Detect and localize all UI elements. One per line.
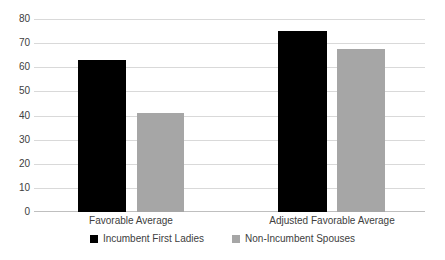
bar-incumbent-first-ladies-favorable-average	[78, 60, 126, 212]
y-tick-label: 0	[4, 207, 30, 217]
x-axis: Favorable Average Adjusted Favorable Ave…	[34, 214, 425, 230]
legend-item-incumbent-first-ladies[interactable]: Incumbent First Ladies	[90, 234, 204, 244]
bar-incumbent-first-ladies-adjusted-favorable-average	[278, 31, 327, 212]
bar-non-incumbent-spouses-adjusted-favorable-average	[337, 49, 385, 212]
legend-swatch-icon	[232, 235, 240, 243]
y-tick-label: 50	[4, 86, 30, 96]
gridline-80	[34, 19, 425, 20]
plot-area	[34, 19, 425, 212]
bar-non-incumbent-spouses-favorable-average	[137, 113, 184, 212]
y-tick-label: 60	[4, 62, 30, 72]
y-tick-label: 70	[4, 38, 30, 48]
bar-chart: 80 70 60 50 40 30 20 10 0 Favorable Aver…	[0, 0, 445, 260]
y-tick-label: 80	[4, 14, 30, 24]
legend-label: Non-Incumbent Spouses	[245, 234, 355, 244]
y-axis: 80 70 60 50 40 30 20 10 0	[0, 19, 30, 212]
x-tick-label-adjusted-favorable-average: Adjusted Favorable Average	[256, 214, 408, 228]
gridline-70	[34, 43, 425, 44]
y-tick-label: 30	[4, 135, 30, 145]
legend-item-non-incumbent-spouses[interactable]: Non-Incumbent Spouses	[232, 234, 355, 244]
legend: Incumbent First Ladies Non-Incumbent Spo…	[0, 234, 445, 244]
y-tick-label: 10	[4, 183, 30, 193]
x-tick-label-favorable-average: Favorable Average	[56, 214, 206, 228]
legend-label: Incumbent First Ladies	[103, 234, 204, 244]
y-tick-label: 40	[4, 111, 30, 121]
legend-swatch-icon	[90, 235, 98, 243]
y-tick-label: 20	[4, 159, 30, 169]
